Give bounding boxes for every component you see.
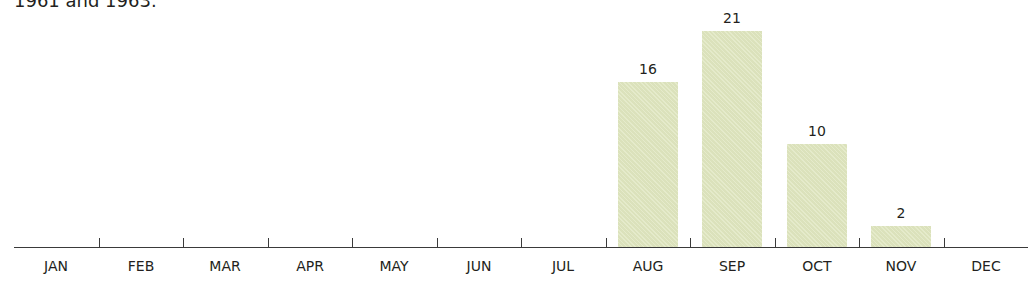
bar-value-label: 16 (618, 61, 678, 77)
x-axis-tick (775, 238, 776, 248)
x-tick-label: JUL (521, 258, 605, 274)
x-tick-label: JAN (14, 258, 98, 274)
x-axis-tick (268, 238, 269, 248)
x-axis-tick (944, 238, 945, 248)
bar-value-label: 2 (871, 205, 931, 221)
x-tick-label: JUN (437, 258, 521, 274)
caption-text: 1961 and 1963. (14, 0, 157, 11)
x-tick-label: SEP (690, 258, 774, 274)
bar-oct (787, 144, 847, 247)
x-axis-tick (859, 238, 860, 248)
x-axis-tick (183, 238, 184, 248)
x-axis-tick (521, 238, 522, 248)
x-axis-tick (99, 238, 100, 248)
x-tick-label: MAR (183, 258, 267, 274)
bar-value-label: 21 (702, 10, 762, 26)
x-tick-label: AUG (606, 258, 690, 274)
x-tick-label: FEB (99, 258, 183, 274)
x-tick-label: APR (268, 258, 352, 274)
bar-sep (702, 31, 762, 247)
bar-aug (618, 82, 678, 247)
bar-nov (871, 226, 931, 247)
x-axis-tick (437, 238, 438, 248)
x-tick-label: OCT (775, 258, 859, 274)
bar-value-label: 10 (787, 123, 847, 139)
x-axis-tick (606, 238, 607, 248)
x-tick-label: NOV (859, 258, 943, 274)
x-axis-tick (690, 238, 691, 248)
x-axis-tick (352, 238, 353, 248)
x-tick-label: MAY (352, 258, 436, 274)
x-tick-label: DEC (944, 258, 1028, 274)
